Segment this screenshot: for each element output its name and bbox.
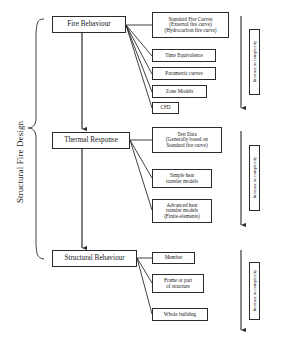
option-box-time-equivalence[interactable]: Time Equivalence <box>152 49 216 62</box>
diagram-title-structural-fire-design: Structural Fire Design <box>13 102 27 222</box>
option-line: (Hydrocarbon fire curve) <box>162 28 218 34</box>
complexity-label-fire-behaviour: Increase in complexity <box>252 31 257 93</box>
complexity-label-structural-behaviour: Increase in complexity <box>252 260 257 322</box>
complexity-label-thermal-response: Increase in complexity <box>252 147 257 209</box>
option-line: (Finite-elements) <box>162 214 202 220</box>
option-box-standard-fire-curves[interactable]: Standard Fire Curves (External fire curv… <box>152 12 229 38</box>
option-line: of structure <box>164 284 192 290</box>
option-box-simple-heat-transfer-models[interactable]: Simple heat transfer models <box>152 169 212 188</box>
connector-lines <box>0 0 282 339</box>
option-line: Parametric curves <box>163 71 204 77</box>
option-box-zone-models[interactable]: Zone Models <box>152 85 207 98</box>
option-line: CFD <box>158 105 172 111</box>
option-line: Standard fire curve) <box>164 143 209 149</box>
stage-box-fire-behaviour[interactable]: Fire Behaviour <box>52 16 126 33</box>
option-line: Time Equivalence <box>163 53 205 59</box>
stage-box-thermal-response[interactable]: Thermal Response <box>52 132 130 149</box>
stage-box-structural-behaviour[interactable]: Structural Behaviour <box>52 250 137 267</box>
option-box-test-data[interactable]: Test Data (Generally based on Standard f… <box>152 127 222 153</box>
structural-fire-design-diagram: Structural Fire Design Fire Behaviour St… <box>0 0 282 339</box>
option-line: Whole building <box>162 312 198 318</box>
option-box-whole-building[interactable]: Whole building <box>152 308 208 321</box>
option-line: transfer models <box>164 179 200 185</box>
option-line: Member <box>163 255 185 261</box>
option-line: Zone Models <box>164 89 196 95</box>
option-box-cfd[interactable]: CFD <box>152 102 179 114</box>
option-box-frame-or-part-of-structure[interactable]: Frame or part of structure <box>152 274 204 293</box>
option-box-parametric-curves[interactable]: Parametric curves <box>152 67 216 80</box>
option-box-advanced-heat-transfer-models[interactable]: Advanced heat transfer models (Finite-el… <box>152 199 212 223</box>
option-box-member[interactable]: Member <box>152 252 195 264</box>
